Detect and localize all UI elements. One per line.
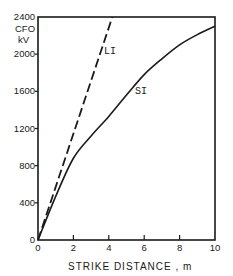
y-axis-label-cfo: CFO (15, 24, 35, 34)
li-series-line (38, 17, 112, 240)
y-tick-label: 1200 (14, 124, 35, 134)
si-series-label: SI (135, 87, 147, 97)
y-tick-label: 800 (19, 161, 35, 171)
axis-ticks (35, 54, 180, 240)
x-tick-label: 6 (134, 243, 154, 253)
x-tick-label: 2 (63, 243, 83, 253)
x-tick-label: 4 (99, 243, 119, 253)
y-tick-label: 2400 (14, 12, 35, 22)
x-tick-label: 10 (205, 243, 225, 253)
li-series-label: LI (104, 47, 116, 57)
x-axis-label: STRIKE DISTANCE , m (68, 262, 192, 272)
si-series-line (38, 26, 215, 240)
x-tick-label: 8 (170, 243, 190, 253)
y-tick-label: 2000 (14, 49, 35, 59)
y-tick-label: 1600 (14, 86, 35, 96)
plot-frame (38, 17, 215, 240)
y-axis-label-kv: kV (18, 35, 29, 45)
x-tick-label: 0 (28, 243, 48, 253)
y-tick-label: 400 (19, 198, 35, 208)
